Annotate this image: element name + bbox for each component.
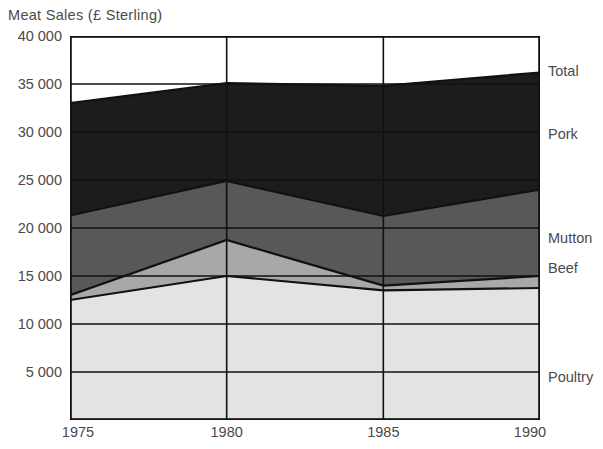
chart-root: Meat Sales (£ Sterling) 5 00010 00015 00…: [0, 0, 603, 449]
legend-label-mutton: Mutton: [548, 230, 592, 246]
legend-label-poultry: Poultry: [548, 369, 593, 385]
legend-label-beef: Beef: [548, 260, 578, 276]
legend-label-total: Total: [548, 63, 579, 79]
legend-label-pork: Pork: [548, 126, 578, 142]
legend: TotalPorkMuttonBeefPoultry: [0, 0, 603, 449]
